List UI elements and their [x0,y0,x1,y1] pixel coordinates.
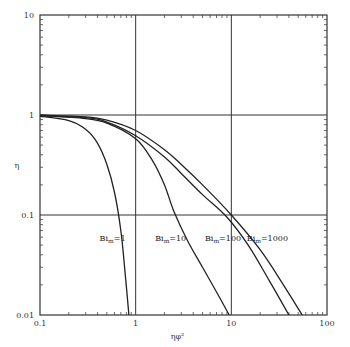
log-log-chart: 0.11101000.010.1110ηφ²ηBim=1Bim=10Bim=10… [0,0,350,347]
curve-label: Bim=100 [205,234,241,244]
x-tick-label: 10 [226,319,236,328]
curve-label: Bim=1000 [247,234,288,244]
y-tick-label: 0.1 [21,211,34,220]
curve-bi-m-1 [40,116,129,315]
plot-frame [40,15,327,315]
y-axis-label: η [15,161,20,170]
x-tick-label: 100 [319,319,334,328]
curve-label: Bim=10 [155,234,186,244]
y-tick-label: 0.01 [16,311,34,320]
x-axis-label: ηφ² [171,332,185,341]
curve-label: Bim=1 [100,234,126,244]
y-tick-label: 10 [24,11,34,20]
x-tick-label: 1 [133,319,138,328]
x-tick-label: 0.1 [34,319,47,328]
y-tick-label: 1 [29,111,34,120]
